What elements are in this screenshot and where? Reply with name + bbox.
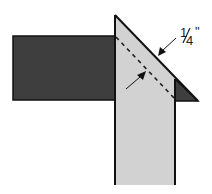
arrow-to-cut-edge: [158, 38, 176, 56]
label-inch-mark: ": [195, 24, 200, 39]
miter-seam-diagram: 1 4 ": [0, 0, 212, 194]
label-denominator: 4: [186, 33, 193, 48]
measurement-label: 1 4 ": [180, 24, 200, 48]
dark-horizontal-strip: [13, 36, 116, 100]
light-vertical-strip-mitered: [115, 15, 175, 185]
